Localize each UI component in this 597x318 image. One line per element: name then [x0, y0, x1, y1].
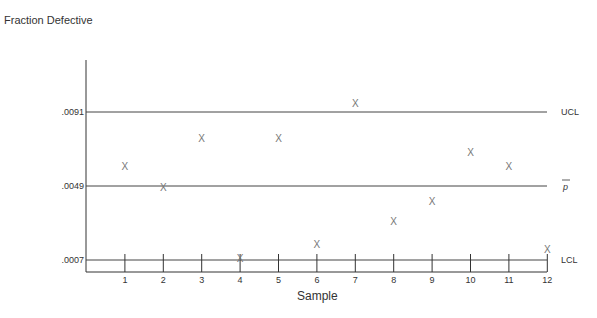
x-tick-label: 2	[161, 275, 166, 285]
data-point-marker: X	[160, 182, 167, 193]
data-point-marker: X	[275, 133, 282, 144]
ucl-label: UCL	[561, 107, 579, 117]
x-tick-label: 11	[504, 275, 513, 285]
x-tick-label: 6	[314, 275, 319, 285]
x-tick-label: 12	[542, 275, 552, 285]
data-point-marker: X	[237, 253, 244, 264]
y-tick-lcl: .0007	[61, 255, 84, 265]
control-chart: .0091 .0049 .0007 UCL p LCL 123456789101…	[0, 0, 597, 318]
data-point-marker: X	[198, 133, 205, 144]
data-point-marker: X	[352, 98, 359, 109]
x-tick-label: 1	[122, 275, 127, 285]
data-points: XXXXXXXXXXXX	[122, 98, 551, 264]
x-tick-label: 5	[276, 275, 281, 285]
x-tick-label: 3	[199, 275, 204, 285]
data-point-marker: X	[544, 244, 551, 255]
x-tick-label: 4	[238, 275, 243, 285]
data-point-marker: X	[314, 239, 321, 250]
y-tick-pbar: .0049	[61, 181, 84, 191]
x-tick-label: 10	[465, 275, 475, 285]
data-point-marker: X	[467, 147, 474, 158]
x-ticks: 123456789101112	[122, 254, 552, 285]
y-tick-ucl: .0091	[61, 107, 84, 117]
data-point-marker: X	[506, 161, 513, 172]
data-point-marker: X	[429, 196, 436, 207]
x-tick-label: 9	[430, 275, 435, 285]
data-point-marker: X	[122, 161, 129, 172]
x-tick-label: 8	[391, 275, 396, 285]
x-tick-label: 7	[353, 275, 358, 285]
lcl-label: LCL	[561, 255, 578, 265]
data-point-marker: X	[390, 216, 397, 227]
pbar-label: p	[562, 182, 568, 192]
